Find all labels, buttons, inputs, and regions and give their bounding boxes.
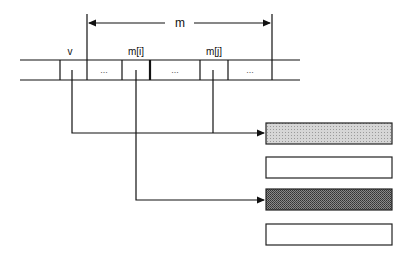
cell-ellipsis: ... bbox=[171, 65, 179, 75]
target-boxes bbox=[266, 123, 392, 245]
box-3-dark bbox=[266, 189, 392, 210]
diagram-canvas: m v m[i] m[j] ... ... ... bbox=[0, 0, 407, 257]
arrow-mi-to-box3 bbox=[136, 70, 264, 200]
cell-ellipsis: ... bbox=[246, 65, 254, 75]
cell-label-mj: m[j] bbox=[206, 46, 222, 57]
dimension-m: m bbox=[87, 14, 272, 60]
cell-ellipsis: ... bbox=[100, 65, 108, 75]
box-2-empty bbox=[266, 157, 392, 178]
cell-label-mi: m[i] bbox=[128, 46, 144, 57]
pointer-arrows bbox=[72, 70, 264, 200]
box-4-empty bbox=[266, 224, 392, 245]
dimension-label: m bbox=[175, 16, 185, 30]
array: v m[i] m[j] ... ... ... bbox=[20, 46, 300, 80]
cell-label-v: v bbox=[68, 46, 73, 57]
box-1-light bbox=[266, 123, 392, 144]
